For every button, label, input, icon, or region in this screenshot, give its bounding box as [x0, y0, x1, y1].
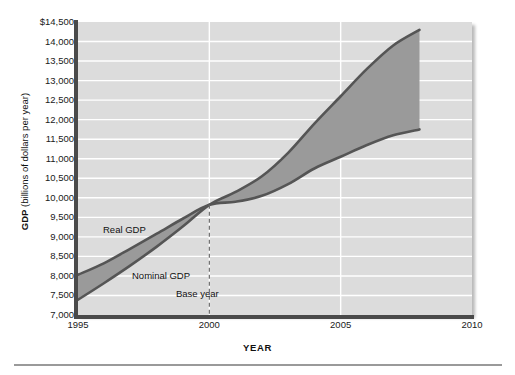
y-axis-tick-label: 12,500 [18, 95, 74, 105]
y-axis-tick-label: 9,500 [18, 212, 74, 222]
y-axis-tick-label: 10,500 [18, 173, 74, 183]
y-axis-tick-label: $14,500 [18, 17, 74, 27]
x-axis-title: YEAR [0, 342, 515, 353]
x-axis-tick-label: 1995 [48, 319, 108, 330]
y-axis-tick-labels: 7,0007,5008,0008,5009,0009,50010,00010,5… [18, 22, 74, 315]
y-axis-tick-label: 13,500 [18, 56, 74, 66]
x-axis-tick-labels: 1995200020052010 [0, 319, 515, 333]
y-axis-tick-label: 10,000 [18, 193, 74, 203]
x-axis-tick-label: 2000 [179, 319, 239, 330]
footer-divider [14, 364, 502, 366]
x-axis-tick-label: 2010 [442, 319, 502, 330]
y-axis-tick-label: 11,500 [18, 134, 74, 144]
annotation-real-gdp: Real GDP [103, 224, 146, 235]
annotation-nominal-gdp: Nominal GDP [132, 270, 190, 281]
y-axis-tick-label: 14,000 [18, 37, 74, 47]
gdp-chart-figure: GDP (billions of dollars per year) 7,000… [0, 0, 515, 375]
annotation-base-year: Base year [176, 288, 219, 299]
y-axis-spine [74, 20, 78, 317]
y-axis-tick-label: 8,500 [18, 251, 74, 261]
y-axis-tick-label: 7,500 [18, 290, 74, 300]
x-axis-tick-label: 2005 [311, 319, 371, 330]
gdp-gap-fill [78, 30, 419, 300]
y-axis-tick-label: 11,000 [18, 154, 74, 164]
y-axis-tick-label: 12,000 [18, 115, 74, 125]
y-axis-tick-label: 8,000 [18, 271, 74, 281]
y-axis-tick-label: 9,000 [18, 232, 74, 242]
y-axis-tick-label: 13,000 [18, 76, 74, 86]
